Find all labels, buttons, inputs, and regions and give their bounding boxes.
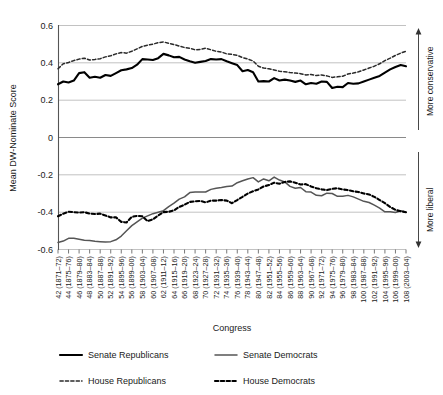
legend-label-house-democrats: House Democrats — [243, 376, 316, 386]
series-line-house-republicans — [58, 42, 406, 77]
y-axis-title: Mean DW-Nominate Score — [8, 84, 18, 191]
chart-legend: Senate Republicans Senate Democrats Hous… — [60, 350, 318, 386]
arrow-up-icon — [416, 28, 422, 34]
x-tick-label: 88 (1963–64) — [296, 256, 305, 299]
legend-label-senate-republicans: Senate Republicans — [88, 350, 169, 360]
x-tick-label: 86 (1959–60) — [286, 256, 295, 299]
x-tick-label: 84 (1955–56) — [275, 256, 284, 299]
y-tick-label: 0.4 — [40, 58, 53, 68]
legend-label-house-republicans: House Republicans — [88, 376, 167, 386]
more-liberal-label: More liberal — [425, 187, 435, 232]
x-tick-label: 100 (1987–88) — [359, 256, 368, 303]
x-tick-label: 54 (1895–96) — [117, 256, 126, 299]
x-tick-label: 52 (1891–92) — [106, 256, 115, 299]
x-tick-label: 68 (1923–24) — [191, 256, 200, 299]
x-tick-label: 70 (1927–28) — [201, 256, 210, 299]
chart-figure: 0.6 0.4 0.2 0 -0.2 -0.4 -0.6 Mean DW-Nom… — [0, 0, 443, 395]
x-axis-title: Congress — [213, 323, 252, 333]
x-tick-label: 50 (1887–88) — [96, 256, 105, 299]
series-line-senate-democrats — [58, 177, 406, 242]
x-tick-label: 44 (1875–76) — [64, 256, 73, 299]
x-tick-label: 76 (1939–40) — [233, 256, 242, 299]
x-tick-label: 94 (1975–76) — [328, 256, 337, 299]
x-axis-layer: 42 (1871–72)44 (1875–76)46 (1879–80)48 (… — [54, 250, 411, 303]
x-tick-label: 58 (1903–04) — [138, 256, 147, 299]
y-tick-label: 0.2 — [40, 95, 53, 105]
x-tick-label: 96 (1979–80) — [338, 256, 347, 299]
y-tick-label: -0.4 — [37, 207, 53, 217]
x-tick-label: 102 (1991–92) — [370, 256, 379, 303]
x-tick-label: 78 (1943–44) — [243, 256, 252, 299]
arrow-down-icon — [416, 242, 422, 248]
chart-svg: 0.6 0.4 0.2 0 -0.2 -0.4 -0.6 Mean DW-Nom… — [0, 0, 443, 395]
x-tick-label: 62 (1911–12) — [159, 256, 168, 298]
x-tick-label: 98 (1983–84) — [349, 256, 358, 299]
x-tick-label: 74 (1935–36) — [222, 256, 231, 299]
y-axis-tick-labels: 0.6 0.4 0.2 0 -0.2 -0.4 -0.6 — [37, 21, 53, 255]
x-tick-label: 106 (1999–00) — [391, 256, 400, 303]
x-tick-label: 104 (1995–96) — [381, 256, 390, 303]
x-tick-label: 48 (1883–84) — [85, 256, 94, 299]
y-tick-label: 0.6 — [40, 21, 53, 31]
x-tick-label: 82 (1951–52) — [265, 256, 274, 299]
more-conservative-label: More conservative — [425, 46, 435, 116]
x-tick-label: 108 (2003–04) — [402, 256, 411, 303]
y-tick-label: -0.6 — [37, 245, 53, 255]
gridlines — [58, 26, 406, 250]
x-tick-label: 66 (1919–20) — [180, 256, 189, 299]
x-tick-label: 60 (1907–08) — [149, 256, 158, 299]
x-tick-label: 80 (1947–48) — [254, 256, 263, 299]
direction-annotations: More conservative More liberal — [416, 28, 435, 248]
x-tick-label: 42 (1871–72) — [54, 256, 63, 299]
series-line-house-democrats — [58, 181, 406, 222]
legend-label-senate-democrats: Senate Democrats — [243, 350, 318, 360]
x-tick-label: 92 (1971–72) — [317, 256, 326, 299]
x-tick-label: 46 (1879–80) — [75, 256, 84, 299]
y-tick-label: 0 — [48, 133, 53, 143]
x-tick-label: 64 (1915–16) — [170, 256, 179, 299]
x-tick-label: 56 (1899–00) — [127, 256, 136, 299]
series-line-senate-republicans — [58, 54, 406, 88]
y-tick-label: -0.2 — [37, 170, 53, 180]
x-tick-label: 90 (1967–68) — [307, 256, 316, 299]
x-tick-label: 72 (1931–32) — [212, 256, 221, 299]
